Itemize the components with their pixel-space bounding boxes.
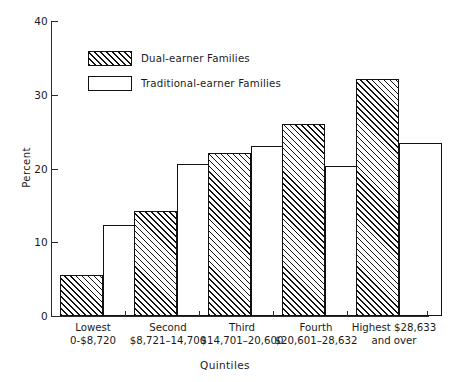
x-category-label-highest: Highest $28,633 and over	[339, 322, 449, 347]
y-tick-20	[52, 169, 58, 170]
x-tick-5	[427, 311, 428, 317]
bar-chart: 40 30 20 10 0 Percent Lowest 0-$8,720 Se…	[0, 0, 449, 382]
bar-dual-earner-fourth	[282, 124, 325, 317]
y-axis-title: Percent	[21, 138, 32, 198]
y-tick-label-30: 30	[22, 89, 48, 101]
x-tick-0	[51, 311, 52, 317]
x-axis-line	[51, 316, 429, 317]
bar-dual-earner-third	[208, 153, 251, 316]
x-tick-4	[347, 311, 348, 317]
x-tick-3	[273, 311, 274, 317]
y-tick-30	[52, 95, 58, 96]
y-tick-10	[52, 242, 58, 243]
bar-dual-earner-second	[134, 211, 177, 317]
legend-item-traditional-earner: Traditional-earner Families	[88, 76, 281, 91]
x-category-label-highest-line1: Highest $28,633	[339, 322, 449, 335]
legend-item-dual-earner: Dual-earner Families	[88, 51, 250, 66]
bar-dual-earner-highest	[356, 79, 399, 316]
legend: Dual-earner Families Traditional-earner …	[88, 51, 308, 97]
legend-label-dual-earner: Dual-earner Families	[141, 53, 250, 64]
bar-dual-earner-lowest	[60, 275, 103, 316]
legend-swatch-dual-earner	[88, 51, 132, 66]
legend-swatch-traditional-earner	[88, 76, 132, 91]
y-tick-40	[52, 21, 58, 22]
bar-traditional-earner-highest	[399, 143, 442, 316]
y-tick-label-40: 40	[22, 15, 48, 27]
x-axis-title: Quintiles	[165, 359, 285, 371]
x-tick-1	[125, 311, 126, 317]
x-category-label-highest-line2: and over	[339, 335, 449, 348]
y-tick-label-10: 10	[22, 236, 48, 248]
y-tick-label-0: 0	[22, 310, 48, 322]
x-tick-2	[199, 311, 200, 317]
legend-label-traditional-earner: Traditional-earner Families	[141, 78, 281, 89]
y-tick-0	[52, 316, 58, 317]
